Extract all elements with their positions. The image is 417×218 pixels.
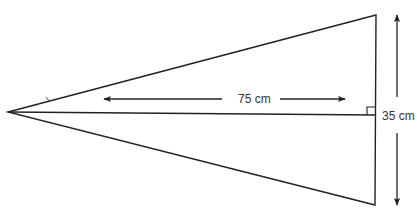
altitude-line: [8, 112, 376, 115]
edge-tick-mark: [46, 97, 49, 101]
triangle-diagram: 75 cm 35 cm: [0, 0, 417, 218]
right-angle-marker: [367, 107, 375, 115]
height-label: 75 cm: [238, 92, 271, 106]
triangle-outline: [8, 15, 376, 205]
half-base-label: 35 cm: [382, 109, 415, 123]
